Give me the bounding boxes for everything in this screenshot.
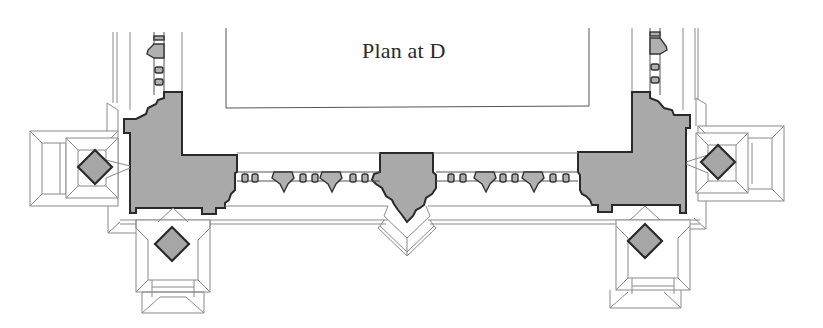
right-corner-pier xyxy=(578,92,690,213)
left-outer-bay xyxy=(30,103,130,206)
left-vertical-balustrade xyxy=(147,32,164,95)
plan-title: Plan at D xyxy=(362,38,446,64)
right-vertical-balustrade xyxy=(650,28,667,95)
center-pier xyxy=(372,153,436,222)
left-lower-bay xyxy=(108,206,210,313)
left-horizontal-balustrade xyxy=(237,172,380,192)
left-corner-pier xyxy=(124,92,237,214)
right-outer-bay xyxy=(686,98,784,201)
right-lower-bay xyxy=(610,201,706,308)
right-horizontal-balustrade xyxy=(436,172,578,192)
